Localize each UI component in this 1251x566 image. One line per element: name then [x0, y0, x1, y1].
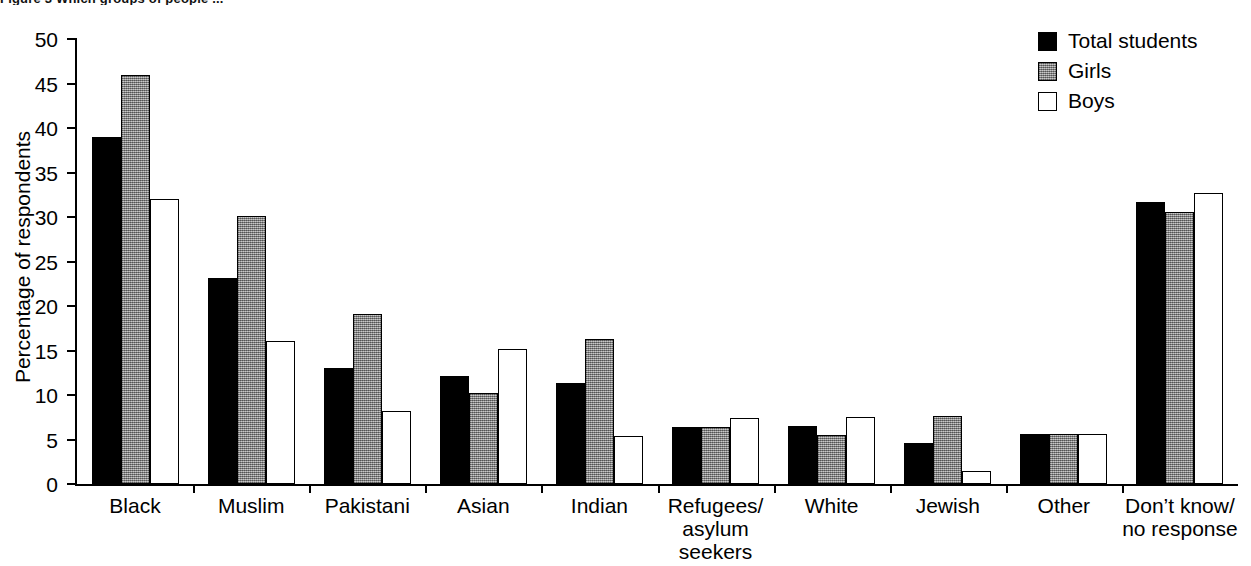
bar-total [92, 137, 121, 484]
bar-girls [469, 393, 498, 484]
legend-item-label: Girls [1068, 59, 1111, 83]
x-axis-tick-mark [1122, 484, 1124, 493]
x-axis-category-label: Don’t know/ no response [1110, 494, 1250, 540]
legend-item: Girls [1038, 56, 1198, 86]
x-axis-tick-mark [658, 484, 660, 493]
bar-total [788, 426, 817, 484]
bar-boys [150, 199, 179, 484]
bar-girls [585, 339, 614, 484]
chart-legend: Total studentsGirlsBoys [1038, 26, 1198, 116]
x-axis-tick-mark [193, 484, 195, 493]
bar-girls [121, 75, 150, 484]
x-axis-tick-mark [1006, 484, 1008, 493]
bar-total [1136, 202, 1165, 484]
bar-boys [730, 418, 759, 484]
bar-girls [817, 435, 846, 484]
bar-total [1020, 434, 1049, 484]
bar-girls [933, 416, 962, 484]
bar-total [556, 383, 585, 484]
bar-boys [1078, 434, 1107, 484]
x-axis-tick-mark [541, 484, 543, 493]
bar-boys [1194, 193, 1223, 484]
bar-total [672, 427, 701, 484]
x-axis-tick-mark [425, 484, 427, 493]
bar-chart: Percentage of respondents 05101520253035… [0, 0, 1251, 566]
bar-boys [266, 341, 295, 484]
bar-boys [962, 471, 991, 484]
bar-boys [846, 417, 875, 484]
legend-item-label: Total students [1068, 29, 1198, 53]
x-axis-tick-mark [774, 484, 776, 493]
legend-item-label: Boys [1068, 89, 1115, 113]
legend-item: Total students [1038, 26, 1198, 56]
x-axis-tick-mark [309, 484, 311, 493]
bar-boys [382, 411, 411, 484]
bar-girls [353, 314, 382, 484]
bar-total [208, 278, 237, 484]
bar-boys [614, 436, 643, 484]
bar-girls [701, 427, 730, 484]
bar-girls [1049, 434, 1078, 484]
bar-boys [498, 349, 527, 484]
x-axis-tick-mark [890, 484, 892, 493]
grey-hatched-square-icon [1038, 62, 1057, 81]
bar-total [324, 368, 353, 484]
white-outline-square-icon [1038, 92, 1057, 111]
bar-girls [1165, 212, 1194, 484]
bar-total [904, 443, 933, 484]
black-filled-square-icon [1038, 32, 1057, 51]
legend-item: Boys [1038, 86, 1198, 116]
bar-total [440, 376, 469, 484]
bar-girls [237, 216, 266, 484]
